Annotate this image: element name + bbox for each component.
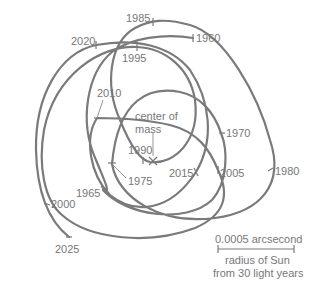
- label-1975: 1975: [128, 175, 152, 187]
- label-1980: 1980: [275, 165, 299, 177]
- year-markers: 1960 1965 1970 1975 1980 1985 1990 1995 …: [44, 12, 299, 255]
- scale-bottom-label-1: radius of Sun: [225, 254, 290, 266]
- sun-barycenter-diagram: center of mass 1960 1965 1970 1975 1980 …: [0, 0, 317, 286]
- label-2010: 2010: [97, 87, 121, 99]
- label-1970: 1970: [226, 127, 250, 139]
- label-2015: 2015: [169, 167, 193, 179]
- label-1960: 1960: [196, 32, 220, 44]
- center-label-line1: center of: [135, 110, 179, 122]
- label-1985: 1985: [126, 12, 150, 24]
- label-1965: 1965: [76, 187, 100, 199]
- label-2005: 2005: [220, 167, 244, 179]
- scale-top-label: 0.0005 arcsecond: [215, 233, 302, 245]
- label-1990: 1990: [128, 144, 152, 156]
- leader-2010: [97, 100, 103, 118]
- scale-bottom-label-2: from 30 light years: [213, 267, 304, 279]
- tick-1980: [268, 168, 273, 171]
- label-2025: 2025: [55, 243, 79, 255]
- diagram-svg: center of mass 1960 1965 1970 1975 1980 …: [0, 0, 317, 286]
- center-label-line2: mass: [135, 123, 162, 135]
- label-2000: 2000: [51, 198, 75, 210]
- scale-bar: 0.0005 arcsecond radius of Sun from 30 l…: [213, 233, 304, 279]
- label-1995: 1995: [122, 52, 146, 64]
- label-2020: 2020: [71, 35, 95, 47]
